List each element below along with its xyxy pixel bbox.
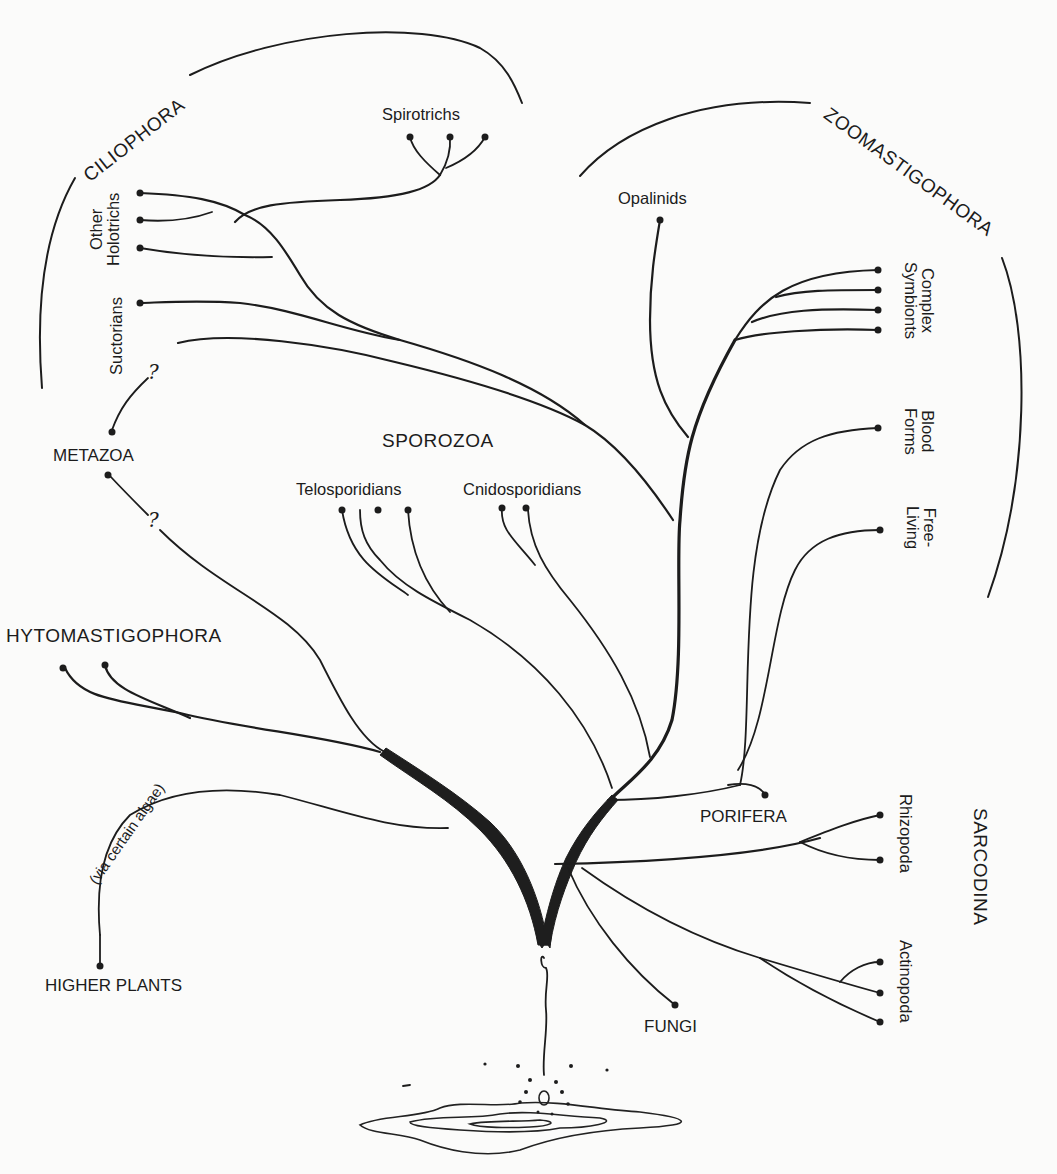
branch-actinopoda-1 (760, 958, 880, 993)
tip-porifera (762, 792, 769, 799)
tip-holotrich-3 (137, 245, 144, 252)
label-cnidosporidians: Cnidosporidians (463, 481, 581, 498)
branch-opalinids (650, 220, 688, 437)
zoomastigophora-bracket-upper (580, 102, 810, 176)
tip-spirotrich-3 (482, 134, 489, 141)
branch-rhizopoda-2 (800, 842, 880, 860)
branch-phytomastigophora-1 (65, 668, 380, 752)
label-other-holotrichs: Other Holotrichs (88, 193, 123, 266)
tip-actinopoda-1 (877, 959, 884, 966)
splash-dash (403, 1085, 410, 1086)
tip-holotrich-1 (137, 190, 144, 197)
label-other-holotrichs-line2: Holotrichs (105, 193, 122, 266)
tip-rhizopoda-1 (877, 812, 884, 819)
tip-telosporidian-2 (375, 507, 382, 514)
tip-spirotrich-2 (447, 134, 454, 141)
branch-spirotrich-3 (446, 137, 485, 168)
tip-cnidosporidian-2 (523, 505, 530, 512)
branch-cnidosporidians-stem (528, 510, 650, 757)
branch-actinopoda-2 (760, 958, 880, 1022)
branch-metazoa-upper (112, 378, 148, 430)
branch-complex-symbiont-4 (735, 329, 878, 340)
branch-complex-symbiont-2 (776, 290, 878, 297)
branch-actinopoda-3 (840, 962, 880, 982)
tip-phytomastigophora-2 (102, 662, 109, 669)
tip-free-living (877, 527, 884, 534)
label-spirotrichs: Spirotrichs (382, 106, 460, 123)
zoomastigophora-bracket-lower (988, 258, 1022, 597)
branch-metazoa-lower (110, 476, 148, 515)
origin-filament (541, 957, 547, 1075)
tip-actinopoda-3 (877, 1019, 884, 1026)
branch-spirotrichs-stem (235, 175, 440, 222)
label-sarcodina: SARCODINA (971, 808, 990, 925)
tip-actinopoda-2 (877, 990, 884, 997)
label-blood-forms: Blood Forms (901, 408, 936, 455)
ciliophora-bracket-lower (40, 178, 75, 388)
branch-spirotrich-1 (410, 137, 440, 175)
label-blood-forms-line2: Forms (901, 408, 918, 455)
branch-ciliophora-upper (140, 193, 585, 425)
tip-complex-symbiont-4 (875, 327, 882, 334)
label-free-living-line2: Living (903, 506, 920, 549)
label-rhizopoda: Rhizopoda (898, 794, 915, 873)
branch-zoomastigophora-trunk (612, 340, 735, 798)
label-complex-symbionts: Complex Symbionts (901, 262, 936, 339)
tip-fungi (672, 1002, 679, 1009)
branch-telosporidians-stem (360, 510, 612, 788)
branch-porifera-stem (608, 785, 740, 800)
tip-metazoa-upper (109, 429, 116, 436)
uncertain-marker-lower: ? (148, 510, 159, 530)
branch-suctorians (140, 301, 400, 340)
label-sporozoa: SPOROZOA (382, 431, 494, 450)
branch-blood-forms (740, 428, 878, 785)
branch-holotrich-3 (140, 248, 272, 257)
label-free-living: Free- Living (903, 506, 938, 549)
tip-telosporidian-1 (339, 507, 346, 514)
tip-cnidosporidian-1 (499, 505, 506, 512)
branch-rhizopoda-stem (555, 838, 820, 864)
branch-porifera (728, 784, 765, 795)
tip-spirotrich-1 (407, 134, 414, 141)
ciliophora-bracket-upper (190, 32, 522, 103)
branch-holotrich-2 (140, 212, 212, 221)
label-complex-symbionts-line2: Symbionts (901, 262, 918, 339)
label-metazoa: METAZOA (53, 447, 134, 464)
label-blood-forms-line1: Blood (919, 408, 936, 455)
label-free-living-line1: Free- (921, 506, 938, 549)
uncertain-marker-upper: ? (148, 362, 159, 382)
label-actinopoda: Actinopoda (898, 940, 915, 1023)
branch-fungi (568, 868, 675, 1005)
tip-suctorians (137, 300, 144, 307)
label-other-holotrichs-line1: Other (88, 193, 105, 266)
tip-metazoa-lower (105, 472, 112, 479)
puddle-inner-2 (470, 1120, 551, 1128)
label-porifera: PORIFERA (700, 808, 787, 825)
puddle-inner-1 (410, 1113, 606, 1132)
tip-telosporidian-3 (405, 507, 412, 514)
branch-actinopoda-stem (582, 868, 760, 958)
branch-telosporidian-3 (408, 510, 450, 612)
branch-phytomastigophora-2 (105, 665, 190, 718)
label-opalinids: Opalinids (618, 190, 687, 207)
tip-holotrich-2 (137, 217, 144, 224)
tip-complex-symbiont-1 (875, 267, 882, 274)
label-complex-symbionts-line1: Complex (919, 262, 936, 339)
phylogenetic-tree-diagram: CILIOPHORA ZOOMASTIGOPHORA SPOROZOA HYTO… (0, 0, 1057, 1174)
tip-complex-symbiont-2 (875, 287, 882, 294)
branch-telosporidian-1 (342, 510, 408, 595)
tip-blood-forms (875, 425, 882, 432)
branch-rhizopoda-1 (800, 815, 880, 842)
label-suctorians: Suctorians (108, 297, 125, 375)
main-trunk-left (380, 748, 548, 945)
tip-complex-symbiont-3 (875, 307, 882, 314)
tip-opalinids (657, 217, 664, 224)
label-telosporidians: Telosporidians (296, 481, 401, 498)
label-higher-plants: HIGHER PLANTS (45, 977, 182, 994)
branch-spirotrich-2 (440, 137, 450, 175)
branch-cnidosporidian-1 (502, 508, 535, 565)
label-fungi: FUNGI (644, 1018, 697, 1035)
main-trunk-right (540, 795, 618, 945)
branch-free-living (738, 530, 880, 770)
label-phytomastigophora: HYTOMASTIGOPHORA (6, 626, 222, 645)
